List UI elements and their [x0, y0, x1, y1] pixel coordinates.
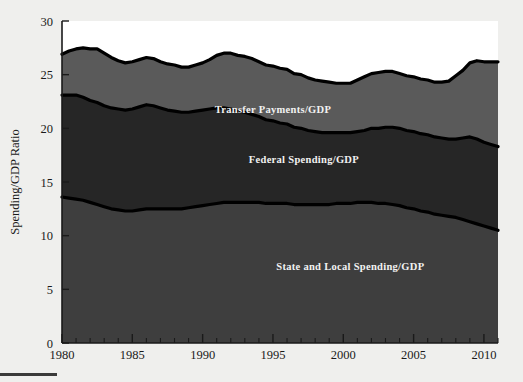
series-label-federal-spending-gdp: Federal Spending/GDP: [249, 154, 359, 165]
y-axis-title: Spending/GDP Ratio: [8, 129, 22, 234]
x-tick-label: 1990: [190, 348, 215, 362]
y-tick-label: 15: [41, 176, 54, 190]
series-label-state-and-local-spending-gdp: State and Local Spending/GDP: [276, 261, 424, 272]
y-tick-label: 10: [41, 229, 54, 243]
series-label-transfer-payments-gdp: Transfer Payments/GDP: [215, 104, 332, 115]
x-tick-label: 2005: [401, 348, 426, 362]
y-tick-label: 30: [41, 15, 54, 29]
area-series-group: [62, 48, 498, 343]
chart-figure: 051015202530 198019851990199520002005201…: [0, 0, 523, 382]
y-tick-label: 5: [47, 283, 53, 297]
y-tick-label: 20: [41, 122, 54, 136]
x-tick-label: 1985: [120, 348, 145, 362]
x-tick-label: 1980: [50, 348, 75, 362]
x-tick-label: 2010: [471, 348, 496, 362]
stacked-area-chart: 051015202530 198019851990199520002005201…: [0, 0, 523, 382]
y-tick-label: 25: [41, 68, 54, 82]
x-tick-label: 1995: [260, 348, 285, 362]
x-tick-label: 2000: [331, 348, 356, 362]
footer-rule: [0, 373, 57, 376]
